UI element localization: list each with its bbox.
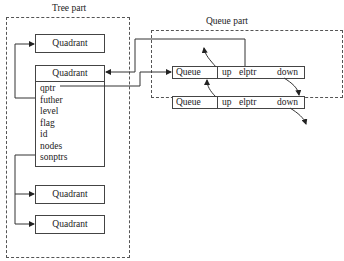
connector-lines	[0, 0, 344, 261]
